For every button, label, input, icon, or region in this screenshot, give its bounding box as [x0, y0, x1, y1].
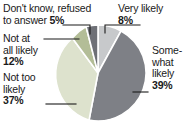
pie-label-not-at-all-likely: Not at all likely 12% — [3, 33, 38, 68]
pie-chart-figure: Don't know, refused to answer 5% Very li… — [0, 0, 193, 123]
pie-label-somewhat-likely-line2: what — [152, 56, 173, 68]
pie-value-not-at-all-likely: 12% — [3, 55, 23, 67]
pie-label-dont-know-line2: to answer — [3, 14, 47, 26]
pie-label-dont-know-line1: Don't know, refused — [3, 2, 91, 14]
pie-label-very-likely: Very likely 8% — [118, 3, 163, 26]
pie-label-somewhat-likely-line3: likely — [152, 67, 174, 79]
pie-label-not-too-likely-line2: likely — [3, 83, 25, 95]
pie-value-not-too-likely: 37% — [3, 94, 23, 106]
pie-label-not-too-likely: Not too likely 37% — [3, 72, 35, 107]
pie-label-dont-know: Don't know, refused to answer 5% — [3, 3, 91, 26]
pie-label-very-likely-line1: Very likely — [118, 2, 163, 14]
pie-value-very-likely: 8% — [118, 14, 133, 26]
pie-label-not-at-all-likely-line2: all likely — [3, 44, 38, 56]
pie-value-dont-know: 5% — [49, 14, 64, 26]
pie-label-not-at-all-likely-line1: Not at — [3, 32, 30, 44]
pie-value-somewhat-likely: 39% — [152, 79, 172, 91]
pie-label-somewhat-likely: Some- what likely 39% — [152, 45, 182, 91]
pie-label-not-too-likely-line1: Not too — [3, 71, 35, 83]
pie-label-somewhat-likely-line1: Some- — [152, 44, 182, 56]
